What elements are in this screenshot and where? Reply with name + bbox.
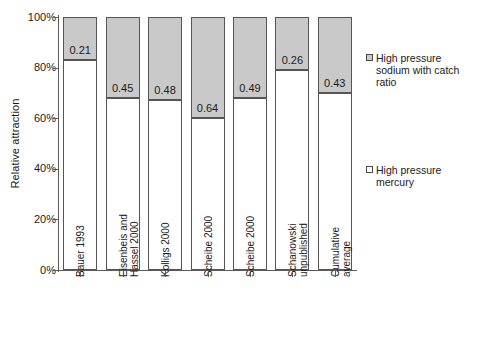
x-tick-label: Scheibe 2000 <box>245 201 259 277</box>
x-tick-mark <box>335 271 336 277</box>
y-axis-tick-labels: 100%80%60%40%20%0% <box>14 0 56 356</box>
y-tick-label: 20% <box>18 214 56 225</box>
y-tick-mark <box>53 270 59 271</box>
y-tick-label: 100% <box>18 12 56 23</box>
x-tick-mark <box>123 271 124 277</box>
y-tick-mark <box>53 219 59 220</box>
bar-segment-sodium[interactable] <box>191 17 225 118</box>
legend-entry[interactable]: High pressure sodium with catch ratio <box>366 52 459 88</box>
legend-label: High pressure sodium with catch ratio <box>376 52 459 88</box>
x-tick-label: Kolligs 2000 <box>160 201 174 277</box>
x-tick-label: Cumulative average <box>330 201 344 277</box>
x-tick-mark <box>250 271 251 277</box>
y-tick-label: 80% <box>18 62 56 73</box>
y-tick-label: 40% <box>18 163 56 174</box>
y-tick-label: 0% <box>18 265 56 276</box>
bar-segment-sodium[interactable] <box>233 17 267 98</box>
bar-segment-sodium[interactable] <box>148 17 182 100</box>
legend-label: High pressure mercury <box>376 164 441 188</box>
y-tick-mark <box>53 118 59 119</box>
x-tick-mark <box>292 271 293 277</box>
legend-swatch-icon <box>366 54 373 61</box>
y-tick-mark <box>53 68 59 69</box>
bar-segment-sodium[interactable] <box>318 17 352 93</box>
bar-segment-sodium[interactable] <box>275 17 309 70</box>
x-tick-label: Scheibe 2000 <box>203 201 217 277</box>
bar-segment-sodium[interactable] <box>106 17 140 98</box>
x-tick-label: Eisenbeis and Hassel 2000 <box>118 201 132 277</box>
legend-entry[interactable]: High pressure mercury <box>366 164 441 188</box>
x-tick-label: Bauer 1993 <box>75 201 89 277</box>
x-tick-mark <box>208 271 209 277</box>
y-tick-mark <box>53 169 59 170</box>
bar-segment-sodium[interactable] <box>63 17 97 60</box>
stacked-bar-chart: Relative attraction 100%80%60%40%20%0% 0… <box>0 0 477 356</box>
x-tick-mark <box>80 271 81 277</box>
x-tick-mark <box>165 271 166 277</box>
x-tick-label: Schanowski unpublished <box>287 201 301 277</box>
y-tick-label: 60% <box>18 113 56 124</box>
y-tick-mark <box>53 17 59 18</box>
legend-swatch-icon <box>366 166 373 173</box>
